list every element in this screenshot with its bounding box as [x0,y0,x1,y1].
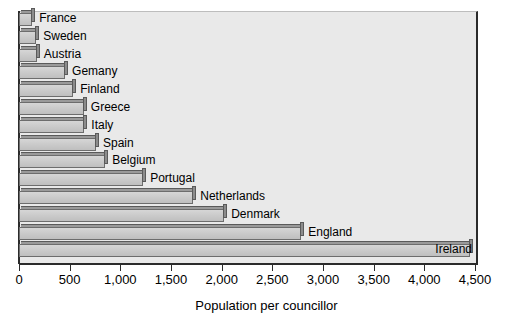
bar-denmark [19,209,224,222]
bar-label-finland: Finland [80,81,119,97]
x-axis-title-text: Population per councillor [195,298,337,313]
bar-label-france: France [39,10,76,26]
bar-italy [19,120,84,133]
x-tick [424,265,425,271]
bar-row: Gemany [19,64,478,82]
bar-row: Ireland [19,242,478,260]
bar-label-austria: Austria [44,46,81,62]
bar-side-face [223,204,227,218]
x-axis-title: Population per councillor [0,298,507,313]
bar-gemany [19,66,65,79]
x-tick-label: 500 [59,272,81,288]
bar-top-face [21,135,98,138]
x-tick [323,265,324,271]
x-tick-label: 3,500 [357,272,390,288]
bar-finland [19,84,73,97]
bar-row: Belgium [19,153,478,171]
bar-side-face [72,79,76,93]
bar-side-face [83,97,87,111]
bar-side-face [300,222,304,236]
x-tick [120,265,121,271]
bars-layer: FranceSwedenAustriaGemanyFinlandGreeceIt… [19,11,478,263]
bar-label-sweden: Sweden [43,28,86,44]
x-tick [70,265,71,271]
bar-label-ireland: Ireland [435,241,472,257]
bar-side-face [104,150,108,164]
bar-top-face [21,241,472,244]
bar-england [19,227,301,240]
bar-row: Portugal [19,171,478,189]
bar-top-face [21,170,145,173]
bar-row: England [19,225,478,243]
bar-side-face [192,186,196,200]
bar-label-italy: Italy [91,117,113,133]
bar-row: Austria [19,47,478,65]
x-tick-label: 0 [15,272,22,288]
bar-row: Greece [19,100,478,118]
bar-row: Netherlands [19,189,478,207]
x-tick-label: 4,500 [459,272,492,288]
x-tick-label: 2,500 [256,272,289,288]
bar-top-face [21,81,75,84]
x-tick [19,265,20,271]
bar-austria [19,49,37,62]
x-tick [222,265,223,271]
bar-label-england: England [308,224,352,240]
bar-top-face [21,206,226,209]
bar-label-spain: Spain [103,135,134,151]
x-tick-label: 1,500 [155,272,188,288]
bar-side-face [36,44,40,58]
bar-row: Italy [19,118,478,136]
bar-side-face [95,133,99,147]
x-tick-label: 4,000 [408,272,441,288]
x-tick [171,265,172,271]
bar-top-face [21,99,86,102]
bar-portugal [19,173,143,186]
bar-side-face [31,8,35,22]
bar-belgium [19,155,105,168]
x-tick [272,265,273,271]
bar-row: France [19,11,478,29]
bar-top-face [21,224,303,227]
bar-greece [19,102,84,115]
bar-label-portugal: Portugal [150,170,195,186]
bar-top-face [21,117,86,120]
bar-side-face [35,26,39,40]
bar-spain [19,138,96,151]
bar-top-face [21,152,107,155]
x-tick [374,265,375,271]
x-tick-label: 1,000 [104,272,137,288]
bar-chart: FranceSwedenAustriaGemanyFinlandGreeceIt… [0,0,507,332]
bar-row: Sweden [19,29,478,47]
bar-label-belgium: Belgium [112,152,155,168]
x-axis-line [19,263,478,265]
bar-netherlands [19,191,193,204]
bar-top-face [21,63,67,66]
bar-side-face [83,115,87,129]
bar-side-face [64,61,68,75]
bar-label-gemany: Gemany [72,63,117,79]
bar-ireland [19,244,470,257]
x-tick-label: 2,000 [205,272,238,288]
bar-top-face [21,188,195,191]
bar-label-denmark: Denmark [231,206,280,222]
bar-row: Denmark [19,207,478,225]
bar-row: Finland [19,82,478,100]
bar-label-greece: Greece [91,99,130,115]
bar-side-face [142,168,146,182]
bar-sweden [19,31,36,44]
bar-label-netherlands: Netherlands [200,188,265,204]
bar-row: Spain [19,136,478,154]
x-tick [475,265,476,271]
x-tick-label: 3,000 [307,272,340,288]
